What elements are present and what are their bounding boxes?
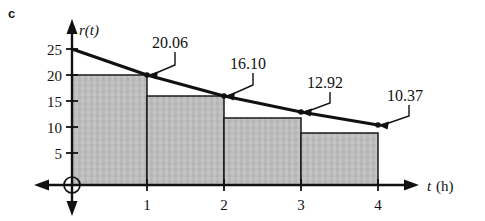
leader-arrow-1: [147, 72, 158, 80]
y-tick-label-10: 10: [47, 120, 62, 136]
y-tick-label-15: 15: [47, 94, 62, 110]
x-axis-arrow-right: [404, 180, 419, 191]
leader-arrow-4: [378, 122, 389, 130]
riemann-rectangles: [72, 75, 378, 185]
value-label-2: 16.10: [230, 55, 266, 72]
part-label: c: [8, 6, 15, 21]
bar-rect-1: [72, 75, 147, 185]
value-label-4: 10.37: [387, 87, 423, 104]
y-axis-arrow-up: [67, 19, 78, 34]
figure-container: c r(t) t (h) 25 20 15 10 5 1 2 3 4 20.06…: [0, 0, 485, 221]
x-tick-label-3: 3: [297, 197, 305, 213]
y-tick-label-20: 20: [47, 68, 62, 84]
x-axis-label-group: t (h): [427, 178, 454, 195]
bar-rect-3: [224, 118, 301, 185]
value-label-1: 20.06: [152, 34, 188, 51]
y-axis-label: r(t): [79, 22, 99, 39]
leader-arrow-2: [224, 93, 235, 101]
y-tick-label-5: 5: [55, 146, 63, 162]
y-axis-arrow-down: [67, 201, 78, 216]
value-annotations: 20.06 16.10 12.92 10.37: [152, 34, 423, 104]
x-tick-label-4: 4: [374, 197, 382, 213]
y-tick-labels: 25 20 15 10 5: [47, 42, 62, 162]
x-axis-arrow-left: [34, 180, 49, 191]
x-axis-label: t: [427, 178, 432, 194]
bar-rect-4: [301, 133, 378, 185]
rate-function-riemann-sum-figure: c r(t) t (h) 25 20 15 10 5 1 2 3 4 20.06…: [0, 0, 485, 221]
leader-line-3: [303, 92, 330, 113]
y-tick-label-25: 25: [47, 42, 62, 58]
leader-arrow-3: [301, 109, 312, 117]
x-tick-label-2: 2: [220, 197, 228, 213]
x-tick-label-1: 1: [143, 197, 151, 213]
bar-rect-2: [147, 96, 224, 185]
leader-line-4: [380, 105, 409, 126]
x-axis-unit: (h): [436, 178, 454, 195]
leader-line-1: [149, 52, 175, 76]
x-tick-labels: 1 2 3 4: [143, 197, 382, 213]
value-label-3: 12.92: [307, 74, 343, 91]
leader-line-2: [226, 73, 253, 97]
